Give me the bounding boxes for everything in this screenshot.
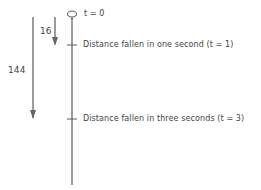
marker-one-second-label: Distance fallen in one second (t = 1) bbox=[83, 40, 234, 49]
start-time-label: t = 0 bbox=[84, 9, 105, 18]
falling-object-icon bbox=[68, 11, 77, 20]
fall-path-line bbox=[67, 18, 77, 185]
distance-144-label: 144 bbox=[8, 65, 25, 75]
arrow-144 bbox=[30, 17, 36, 119]
distance-16-label: 16 bbox=[40, 26, 52, 36]
arrow-16 bbox=[52, 17, 58, 46]
marker-three-seconds-label: Distance fallen in three seconds (t = 3) bbox=[83, 114, 244, 123]
